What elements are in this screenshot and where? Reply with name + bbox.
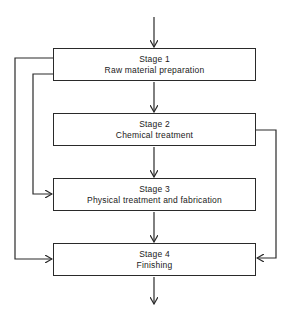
stage3-label: Physical treatment and fabrication <box>87 195 222 206</box>
stage1-label: Raw material preparation <box>105 65 205 76</box>
stage2-title: Stage 2 <box>139 119 170 130</box>
stage3-title: Stage 3 <box>139 184 170 195</box>
stage1-box: Stage 1 Raw material preparation <box>53 48 256 81</box>
stage2-box: Stage 2 Chemical treatment <box>53 113 256 146</box>
bypass-stage1-stage4 <box>15 58 53 259</box>
stage4-label: Finishing <box>137 260 173 271</box>
bypass-stage1-stage3 <box>33 74 53 194</box>
bypass-stage2-stage4 <box>256 130 276 258</box>
stage1-title: Stage 1 <box>139 54 170 65</box>
stage4-box: Stage 4 Finishing <box>53 243 256 276</box>
stage3-box: Stage 3 Physical treatment and fabricati… <box>53 178 256 211</box>
stage2-label: Chemical treatment <box>116 130 193 141</box>
stage4-title: Stage 4 <box>139 249 170 260</box>
